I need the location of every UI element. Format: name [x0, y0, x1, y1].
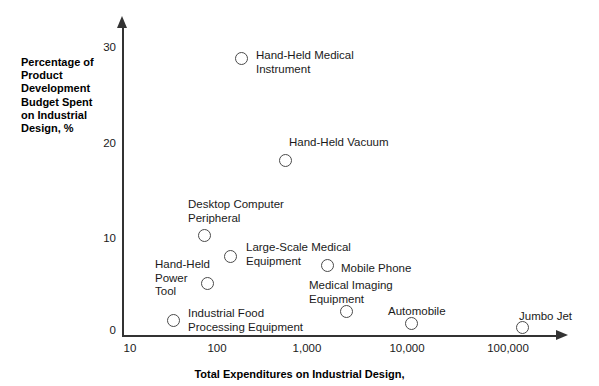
y-axis-title: Percentage of Product Development Budget…	[21, 56, 121, 135]
data-point-label: Industrial Food Processing Equipment	[188, 307, 303, 334]
data-point-label: Medical Imaging Equipment	[309, 279, 393, 306]
data-point-marker	[224, 250, 237, 263]
data-point-label: Hand-Held Vacuum	[289, 136, 389, 150]
y-tick-label: 0	[82, 324, 116, 336]
data-point-marker	[235, 52, 248, 65]
x-tick-label: 100,000	[468, 342, 548, 355]
x-axis-arrow-icon	[556, 330, 568, 340]
y-tick-label: 10	[82, 232, 116, 244]
data-point-label: Mobile Phone	[341, 262, 411, 276]
data-point-marker	[167, 314, 180, 327]
y-tick-label: 20	[82, 137, 116, 149]
scatter-chart-figure: Percentage of Product Development Budget…	[0, 0, 599, 386]
data-point-label: Jumbo Jet	[519, 310, 572, 324]
data-point-label: Desktop Computer Peripheral	[188, 198, 284, 225]
y-axis-line	[122, 26, 124, 336]
data-point-label: Hand-Held Medical Instrument	[256, 49, 354, 76]
data-point-marker	[340, 305, 353, 318]
y-axis-arrow-icon	[117, 16, 127, 28]
data-point-label: Large-Scale Medical Equipment	[246, 241, 351, 268]
data-point-marker	[321, 259, 334, 272]
data-point-label: Hand-Held Power Tool	[155, 258, 210, 299]
x-tick-label: 10	[90, 342, 170, 355]
data-point-marker	[198, 229, 211, 242]
x-axis-title: Total Expenditures on Industrial Design,	[0, 368, 599, 381]
y-tick-label: 30	[82, 41, 116, 53]
x-tick-label: 10,000	[367, 342, 447, 355]
x-tick-label: 100	[177, 342, 257, 355]
data-point-marker	[279, 154, 292, 167]
x-axis-line	[122, 335, 560, 337]
data-point-label: Automobile	[388, 305, 446, 319]
x-tick-label: 1,000	[267, 342, 347, 355]
